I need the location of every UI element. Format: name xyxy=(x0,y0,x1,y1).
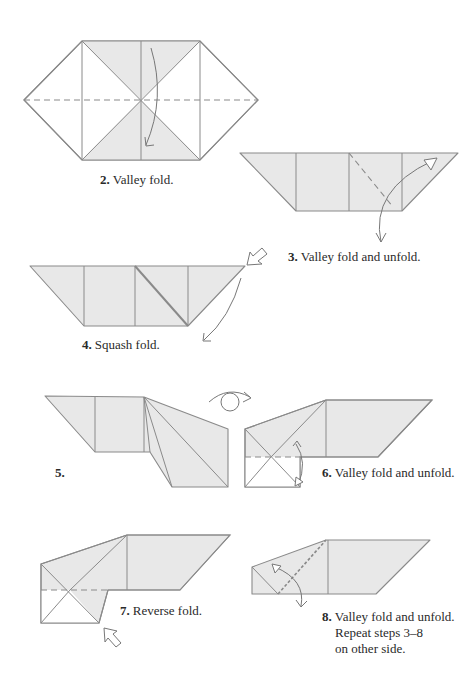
step-7-figure xyxy=(41,535,230,647)
step-8-caption: 8.Valley fold and unfold. Repeat steps 3… xyxy=(322,609,455,657)
step-5-caption: 5. xyxy=(55,465,68,481)
step-2-caption: 2.Valley fold. xyxy=(100,172,173,188)
step-text: Valley fold and unfold. xyxy=(335,609,455,624)
turn-over-icon xyxy=(209,392,251,411)
step-text-line3: on other side. xyxy=(322,641,455,657)
step-4-figure xyxy=(30,248,267,341)
step-3-caption: 3.Valley fold and unfold. xyxy=(288,249,421,265)
step-8-figure xyxy=(252,540,430,607)
step-number: 8. xyxy=(322,609,332,624)
step-4-caption: 4.Squash fold. xyxy=(82,337,160,353)
step-6-caption: 6.Valley fold and unfold. xyxy=(322,465,455,481)
step-number: 5. xyxy=(55,465,65,480)
step-text: Valley fold and unfold. xyxy=(301,249,421,264)
step-number: 4. xyxy=(82,337,92,352)
origami-diagram xyxy=(0,0,475,677)
step-number: 3. xyxy=(288,249,298,264)
step-3-figure xyxy=(240,153,458,242)
step-text: Reverse fold. xyxy=(133,603,202,618)
step-7-caption: 7.Reverse fold. xyxy=(120,603,202,619)
step-2-figure xyxy=(24,41,258,160)
step-number: 2. xyxy=(100,172,110,187)
push-arrow-icon xyxy=(247,248,267,265)
push-arrow-icon xyxy=(104,628,121,647)
step-5-figure xyxy=(45,392,251,487)
step-number: 7. xyxy=(120,603,130,618)
step-text: Squash fold. xyxy=(95,337,160,352)
step-text-line2: Repeat steps 3–8 xyxy=(322,625,455,641)
step-number: 6. xyxy=(322,465,332,480)
step-text: Valley fold. xyxy=(113,172,174,187)
step-text: Valley fold and unfold. xyxy=(335,465,455,480)
